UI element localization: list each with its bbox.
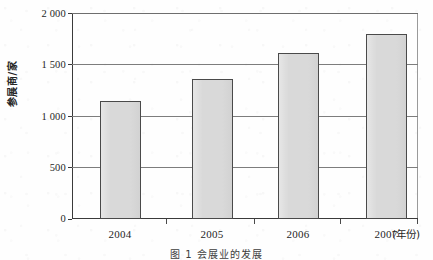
x-tick-label-2004: 2004 xyxy=(80,228,160,240)
x-axis-unit-label: (年份) xyxy=(392,228,420,240)
bar-2005 xyxy=(192,79,233,219)
x-tick-mark-4 xyxy=(417,219,418,224)
bar-chart-figure: 参展商/家 2 000 1 500 1 000 500 0 2004 2005 … xyxy=(0,0,433,260)
bar-2007 xyxy=(366,34,407,219)
y-tick-label-2000: 2 000 xyxy=(4,9,66,19)
x-tick-mark-3 xyxy=(340,219,341,224)
bar-2004 xyxy=(100,101,141,219)
bar-2006 xyxy=(278,53,319,219)
y-tick-label-1500: 1 500 xyxy=(4,60,66,70)
x-tick-mark-1 xyxy=(166,219,167,224)
x-tick-label-2006: 2006 xyxy=(258,228,338,240)
y-tick-label-1000: 1 000 xyxy=(4,112,66,122)
y-tick-label-500: 500 xyxy=(4,163,66,173)
figure-caption: 图 1 会展业的发展 xyxy=(0,249,433,260)
x-tick-mark-2 xyxy=(254,219,255,224)
gridline-2000 xyxy=(72,13,418,14)
plot-area xyxy=(72,13,418,219)
x-tick-label-2005: 2005 xyxy=(172,228,252,240)
y-tick-label-0: 0 xyxy=(4,214,66,224)
y-tick-mark-0 xyxy=(68,219,72,220)
